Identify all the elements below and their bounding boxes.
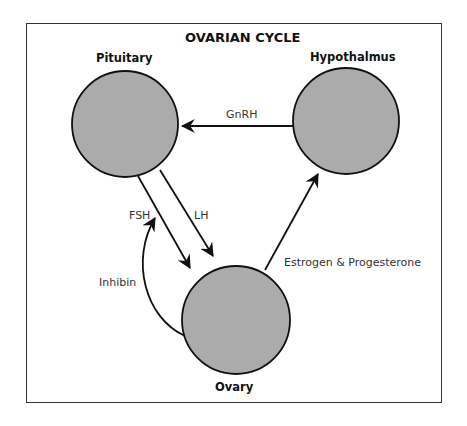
ovary-label: Ovary: [215, 380, 253, 394]
inhibin-arrow: [143, 218, 185, 336]
ovary-node: [182, 266, 290, 374]
inhibin-label: Inhibin: [99, 276, 136, 289]
diagram-title: OVARIAN CYCLE: [185, 30, 300, 45]
estrogen-progesterone-label: Estrogen & Progesterone: [284, 256, 421, 269]
hypothalmus-label: Hypothalmus: [310, 50, 396, 64]
fsh-arrow: [138, 176, 190, 268]
pituitary-label: Pituitary: [96, 51, 152, 65]
lh-label: LH: [194, 209, 208, 222]
gnrh-label: GnRH: [226, 108, 257, 121]
pituitary-node: [72, 71, 178, 177]
fsh-label: FSH: [129, 209, 150, 222]
hypothalmus-node: [293, 68, 399, 174]
diagram-canvas: [0, 0, 467, 426]
